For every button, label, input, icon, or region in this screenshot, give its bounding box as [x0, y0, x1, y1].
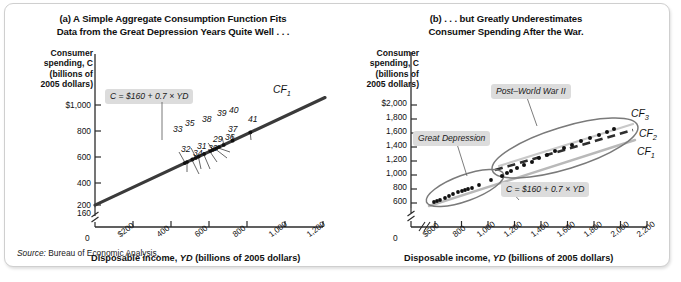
point-label-37: 37 — [228, 124, 238, 134]
y-title-line4: 2005 dollars) — [17, 79, 93, 89]
point-label-30: 30 — [208, 143, 218, 153]
pw-point-3 — [509, 169, 513, 173]
gd-point-7 — [456, 190, 460, 194]
panel-a-ytick-400: 400 — [33, 178, 91, 188]
gd-point-3 — [438, 198, 442, 202]
panel-b-y-axis-break — [408, 208, 415, 227]
great-depression-leader — [457, 144, 467, 176]
panel-b-ytick-1000: 1,000 — [353, 168, 407, 178]
x-title-yd: YD — [180, 253, 193, 263]
y-title-line1: Consumer — [341, 48, 419, 58]
pw-point-6 — [530, 160, 534, 164]
cf1-sub: 1 — [287, 89, 291, 98]
y-title-line2: spending, C — [341, 58, 419, 68]
point-label-38: 38 — [202, 114, 212, 124]
x-title-post: (billions of 2005 dollars) — [506, 253, 614, 263]
cf2-text: CF — [639, 128, 653, 139]
panel-a-equation-callout: C = $160 + 0.7 × YD — [105, 89, 193, 104]
gd-point-5 — [447, 194, 451, 198]
gd-point-6 — [451, 192, 455, 196]
cf2-sub: 2 — [653, 133, 657, 142]
x-title-pre: Disposable income, — [404, 253, 493, 263]
panel-b-ytick-1800: 1,800 — [353, 112, 407, 122]
y-title-line3: (billions of — [341, 69, 419, 79]
panel-a-y-ticks — [95, 105, 101, 205]
panel-a-xtick-0: 0 — [85, 233, 90, 243]
cf3-sub: 3 — [645, 113, 649, 122]
figure-frame: (a) A Simple Aggregate Consumption Funct… — [4, 3, 670, 267]
cf1-text: CF — [637, 146, 651, 157]
pw-point-10 — [562, 146, 566, 150]
gd-point-12 — [477, 183, 481, 187]
y-title-line2: spending, C — [17, 58, 93, 68]
cf3-text: CF — [631, 108, 645, 119]
panel-b-title-line2: Consumer Spending After the War. — [341, 26, 671, 39]
y-title-line4: 2005 dollars) — [341, 79, 419, 89]
pw-point-5 — [522, 163, 526, 167]
panel-b-y-axis-title: Consumer spending, C (billions of 2005 d… — [341, 48, 419, 90]
panel-b-title: (b) . . . but Greatly Underestimates Con… — [341, 13, 671, 38]
cf1-text: CF — [273, 84, 287, 95]
point-label-39: 39 — [217, 108, 227, 118]
pw-point-4 — [515, 166, 519, 170]
pw-point-1 — [500, 174, 504, 178]
panel-b-xtick-0: 0 — [393, 233, 398, 243]
source-label: Source: — [17, 248, 46, 258]
pw-point-2 — [505, 171, 509, 175]
panel-b-ytick-1200: 1,200 — [353, 154, 407, 164]
panel-a-title: (a) A Simple Aggregate Consumption Funct… — [5, 13, 341, 38]
pw-point-8 — [545, 153, 549, 157]
panel-b-cf2-label: CF2 — [639, 128, 657, 142]
source-text: Bureau of Economic Analysis. — [48, 248, 159, 258]
cf1-sub: 1 — [651, 151, 655, 160]
panel-b-cf3-label: CF3 — [631, 108, 649, 122]
point-label-41: 41 — [248, 114, 258, 124]
panel-a-y-axis-title: Consumer spending, C (billions of 2005 d… — [17, 48, 93, 90]
point-label-29: 29 — [213, 134, 223, 144]
panel-a-ytick-160: 160 — [33, 208, 91, 218]
point-label-33: 33 — [173, 124, 183, 134]
panel-a-ytick-800: 800 — [33, 126, 91, 136]
pw-point-9 — [553, 149, 557, 153]
x-title-post: (billions of 2005 dollars) — [193, 253, 301, 263]
panel-b-x-axis-title: Disposable income, YD (billions of 2005 … — [404, 253, 613, 263]
pw-point-15 — [605, 130, 609, 134]
panel-a-ytick-600: 600 — [33, 152, 91, 162]
pw-point-12 — [579, 139, 583, 143]
y-title-line1: Consumer — [17, 48, 93, 58]
source-note: Source: Bureau of Economic Analysis. — [17, 248, 159, 258]
panel-a-ytick-1000: $1,000 — [33, 100, 91, 110]
gd-point-4 — [443, 196, 447, 200]
point-label-40: 40 — [229, 105, 239, 115]
gd-point-11 — [470, 186, 474, 190]
panel-b-ytick-800: 800 — [353, 182, 407, 192]
point-label-31: 31 — [197, 141, 207, 151]
panel-a-cf1-label: CF1 — [273, 84, 291, 98]
panel-a-equation-leader — [157, 102, 167, 142]
x-title-yd: YD — [493, 253, 506, 263]
gd-point-10 — [466, 187, 470, 191]
panel-b-ytick-2000: $2,000 — [353, 98, 407, 108]
point-label-32: 32 — [181, 144, 191, 154]
panel-b-ytick-1600: 1,600 — [353, 126, 407, 136]
panel-b-ytick-1400: 1,400 — [353, 140, 407, 150]
panel-b-cf1-label: CF1 — [637, 146, 655, 160]
panel-b-ytick-600: 600 — [353, 196, 407, 206]
panel-b: (b) . . . but Greatly Underestimates Con… — [341, 4, 671, 266]
panel-b-title-line1: (b) . . . but Greatly Underestimates — [341, 13, 671, 26]
panel-b-y-ticks — [411, 105, 417, 203]
panel-b-plot — [407, 96, 659, 238]
panel-a-title-line2: Data from the Great Depression Years Qui… — [5, 26, 341, 39]
panel-b-postwar-callout: Post–World War II — [491, 84, 571, 99]
pw-point-16 — [612, 127, 616, 131]
point-label-35: 35 — [185, 118, 195, 128]
pw-point-14 — [597, 133, 601, 137]
panel-a-axis-break — [92, 208, 99, 227]
panel-a: (a) A Simple Aggregate Consumption Funct… — [5, 4, 341, 266]
panel-a-title-line1: (a) A Simple Aggregate Consumption Funct… — [5, 13, 341, 26]
panel-b-great-depression-callout: Great Depression — [413, 131, 490, 146]
pw-point-7 — [537, 156, 541, 160]
pw-point-11 — [570, 143, 574, 147]
panel-b-equation-callout: C = $160 + 0.7 × YD — [501, 182, 589, 197]
y-title-line3: (billions of — [17, 69, 93, 79]
